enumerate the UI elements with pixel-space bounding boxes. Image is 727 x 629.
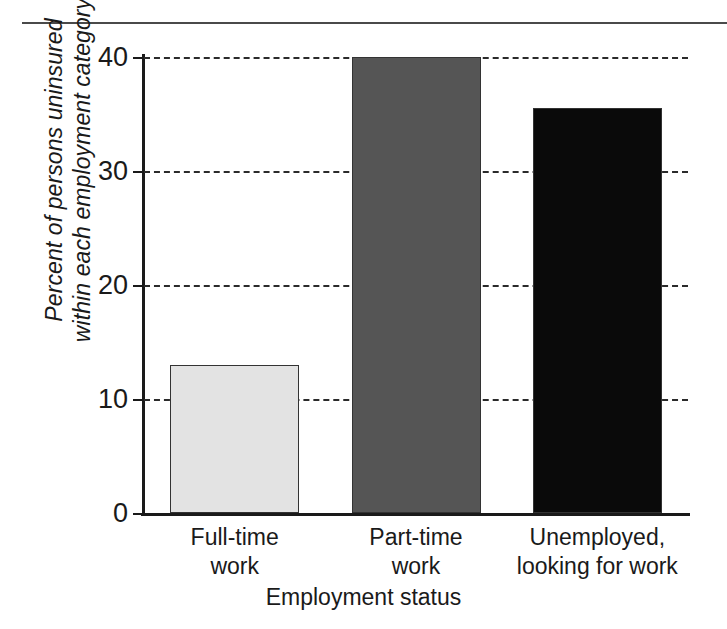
tickmark-0	[133, 513, 144, 515]
tickmark-20	[133, 285, 144, 287]
y-axis-title: Percent of persons uninsured within each…	[36, 0, 100, 385]
x-tick-label: Full-time work	[144, 523, 325, 581]
tickmark-30	[133, 171, 144, 173]
bar	[352, 57, 481, 513]
bar	[533, 108, 662, 513]
x-tick-label: Part-time work	[325, 523, 506, 581]
x-axis-title: Employment status	[0, 584, 727, 611]
tickmark-40	[133, 57, 144, 59]
y-tick-label: 40	[98, 42, 128, 73]
plot-area: 010203040 Full-time workPart-time workUn…	[144, 57, 688, 513]
y-tick-label: 10	[98, 384, 128, 415]
y-axis-title-text: Percent of persons uninsured within each…	[40, 0, 96, 342]
x-tick-label: Unemployed, looking for work	[507, 523, 688, 581]
y-tick-label: 20	[98, 270, 128, 301]
x-axis-line	[141, 513, 690, 516]
y-tick-label: 0	[113, 498, 128, 529]
chart-figure: Percent of persons uninsured within each…	[0, 0, 727, 629]
y-tick-label: 30	[98, 156, 128, 187]
bar	[170, 365, 299, 513]
tickmark-10	[133, 399, 144, 401]
header-rule	[22, 22, 727, 24]
